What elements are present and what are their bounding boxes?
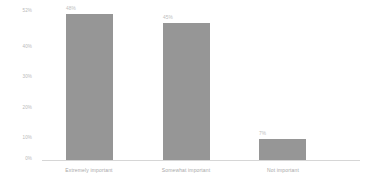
bar-value-label: 45%	[163, 15, 210, 21]
x-axis-label-somewhat-important: Somewhat important	[131, 167, 241, 174]
bar-not-important	[259, 139, 306, 160]
y-tick-label-20: 20%	[0, 105, 32, 111]
x-axis-label-extremely-important: Extremely important	[34, 167, 144, 174]
bar-somewhat-important	[163, 23, 210, 160]
y-tick-label-40: 40%	[0, 44, 32, 50]
y-tick-label-30: 30%	[0, 74, 32, 80]
y-axis: 52% 40% 30% 20% 10% 0%	[0, 0, 32, 185]
bar-extremely-important	[66, 14, 113, 160]
bar-value-label: 7%	[259, 131, 306, 137]
y-tick-label-10: 10%	[0, 135, 32, 141]
x-axis-label-not-important: Not important	[228, 167, 338, 174]
y-tick-label-52: 52%	[0, 8, 32, 14]
bar-chart: 52% 40% 30% 20% 10% 0% 48% 45% 7% Extrem…	[0, 0, 368, 185]
y-tick-label-0: 0%	[0, 156, 32, 162]
bar-value-label: 48%	[66, 6, 113, 12]
plot-area: 48% 45% 7%	[42, 0, 360, 185]
